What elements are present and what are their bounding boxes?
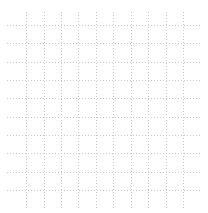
- grid-line-horizontal: [7, 25, 201, 26]
- grid-line-horizontal: [7, 153, 201, 154]
- grid-line-horizontal: [7, 80, 201, 81]
- grid-line-horizontal: [7, 117, 201, 118]
- grid-line-vertical: [113, 12, 114, 208]
- grid-line-horizontal: [7, 135, 201, 136]
- grid-line-horizontal: [7, 172, 201, 173]
- grid-line-vertical: [61, 12, 62, 208]
- grid-line-vertical: [183, 12, 184, 208]
- grid-line-vertical: [96, 12, 97, 208]
- grid-line-horizontal: [7, 98, 201, 99]
- grid-line-vertical: [26, 12, 27, 208]
- grid-line-vertical: [44, 12, 45, 208]
- grid-line-vertical: [166, 12, 167, 208]
- grid-line-horizontal: [7, 190, 201, 191]
- dotted-grid-canvas: [0, 0, 208, 213]
- grid-line-vertical: [131, 12, 132, 208]
- grid-line-vertical: [148, 12, 149, 208]
- grid-line-vertical: [78, 12, 79, 208]
- grid-line-horizontal: [7, 62, 201, 63]
- grid-line-horizontal: [7, 43, 201, 44]
